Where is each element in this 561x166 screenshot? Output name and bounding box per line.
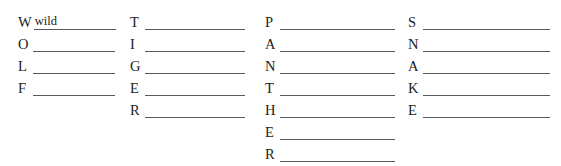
- acrostic-row: N: [408, 30, 550, 52]
- acrostic-row: Wwild: [18, 8, 116, 30]
- acrostic-row: R: [130, 96, 245, 118]
- prompt-letter: R: [130, 103, 145, 118]
- answer-blank-line[interactable]: [33, 81, 115, 96]
- prompt-letter: A: [408, 59, 423, 74]
- acrostic-row: T: [130, 8, 245, 30]
- answer-blank-line[interactable]: [280, 125, 395, 140]
- answer-blank-line[interactable]: [145, 37, 245, 52]
- answer-blank-line[interactable]: [423, 37, 550, 52]
- answer-text: wild: [35, 15, 57, 28]
- prompt-letter: T: [265, 81, 280, 96]
- acrostic-row: O: [18, 30, 115, 52]
- prompt-letter: L: [18, 59, 33, 74]
- answer-blank-line[interactable]: [280, 81, 395, 96]
- answer-blank-line[interactable]: [423, 15, 550, 30]
- acrostic-row: E: [408, 96, 550, 118]
- acrostic-row: G: [130, 52, 245, 74]
- acrostic-row: N: [265, 52, 395, 74]
- prompt-letter: A: [265, 37, 280, 52]
- acrostic-worksheet: WwildOLFTIGERPANTHERSNAKE: [0, 0, 561, 166]
- acrostic-row: E: [130, 74, 245, 96]
- answer-blank-line[interactable]: wild: [34, 15, 116, 30]
- acrostic-row: L: [18, 52, 115, 74]
- prompt-letter: P: [265, 15, 280, 30]
- acrostic-row: H: [265, 96, 395, 118]
- answer-blank-line[interactable]: [33, 59, 115, 74]
- acrostic-row: A: [265, 30, 395, 52]
- answer-blank-line[interactable]: [423, 103, 550, 118]
- prompt-letter: N: [265, 59, 280, 74]
- answer-blank-line[interactable]: [145, 59, 245, 74]
- answer-blank-line[interactable]: [280, 15, 395, 30]
- prompt-letter: E: [130, 81, 145, 96]
- acrostic-row: S: [408, 8, 550, 30]
- prompt-letter: K: [408, 81, 423, 96]
- prompt-letter: G: [130, 59, 145, 74]
- answer-blank-line[interactable]: [423, 59, 550, 74]
- answer-blank-line[interactable]: [145, 81, 245, 96]
- acrostic-row: E: [265, 118, 395, 140]
- prompt-letter: E: [408, 103, 423, 118]
- prompt-letter: W: [18, 15, 34, 30]
- acrostic-row: T: [265, 74, 395, 96]
- answer-blank-line[interactable]: [280, 147, 395, 162]
- answer-blank-line[interactable]: [33, 37, 115, 52]
- prompt-letter: R: [265, 147, 280, 162]
- acrostic-row: F: [18, 74, 115, 96]
- prompt-letter: O: [18, 37, 33, 52]
- acrostic-row: K: [408, 74, 550, 96]
- answer-blank-line[interactable]: [145, 103, 245, 118]
- acrostic-row: I: [130, 30, 245, 52]
- prompt-letter: I: [130, 37, 145, 52]
- prompt-letter: H: [265, 103, 280, 118]
- prompt-letter: N: [408, 37, 423, 52]
- prompt-letter: T: [130, 15, 145, 30]
- prompt-letter: E: [265, 125, 280, 140]
- answer-blank-line[interactable]: [280, 37, 395, 52]
- answer-blank-line[interactable]: [145, 15, 245, 30]
- answer-blank-line[interactable]: [280, 59, 395, 74]
- answer-blank-line[interactable]: [423, 81, 550, 96]
- prompt-letter: S: [408, 15, 423, 30]
- acrostic-row: P: [265, 8, 395, 30]
- answer-blank-line[interactable]: [280, 103, 395, 118]
- prompt-letter: F: [18, 81, 33, 96]
- acrostic-row: R: [265, 140, 395, 162]
- acrostic-row: A: [408, 52, 550, 74]
